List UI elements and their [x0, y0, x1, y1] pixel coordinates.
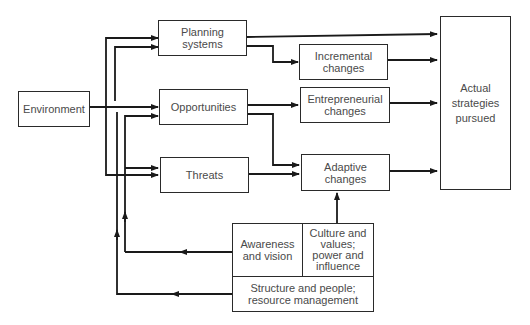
- opportunities-box: Opportunities: [159, 89, 248, 125]
- awareness-vision-box: Awareness and vision: [232, 223, 303, 277]
- actual-strategies-label: Actual strategies pursued: [452, 81, 500, 126]
- culture-values-box: Culture and values; power and influence: [302, 223, 374, 277]
- structure-people-box: Structure and people; resource managemen…: [232, 276, 374, 312]
- entrepreneurial-changes-label: Entrepreneurial changes: [307, 93, 382, 117]
- adaptive-changes-label: Adaptive changes: [324, 161, 367, 185]
- incremental-changes-label: Incremental changes: [315, 50, 372, 74]
- environment-box: Environment: [18, 91, 90, 127]
- incremental-changes-box: Incremental changes: [299, 44, 388, 80]
- entrepreneurial-changes-box: Entrepreneurial changes: [300, 87, 390, 123]
- threats-label: Threats: [186, 169, 223, 181]
- culture-values-label: Culture and values; power and influence: [310, 228, 367, 272]
- opportunities-label: Opportunities: [171, 101, 236, 113]
- planning-systems-box: Planning systems: [158, 20, 247, 56]
- structure-people-label: Structure and people; resource managemen…: [248, 282, 358, 306]
- planning-systems-label: Planning systems: [181, 26, 224, 50]
- threats-box: Threats: [160, 157, 249, 193]
- environment-label: Environment: [23, 103, 85, 115]
- adaptive-changes-box: Adaptive changes: [301, 154, 390, 191]
- awareness-vision-label: Awareness and vision: [240, 238, 294, 262]
- actual-strategies-box: Actual strategies pursued: [440, 16, 511, 190]
